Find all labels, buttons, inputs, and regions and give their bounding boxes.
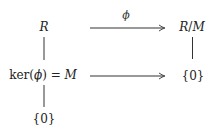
commutative-diagram: ϕ R R/M ker(ϕ) = M {0} {0} <box>0 0 216 134</box>
node-r-mod-m-r: R <box>179 20 188 34</box>
node-r-mod-m-m: M <box>192 20 204 34</box>
node-kernel-phi: ϕ <box>34 68 42 82</box>
node-r: R <box>39 21 48 33</box>
node-kernel-m: M <box>65 68 77 82</box>
node-zero-bottom: {0} <box>33 113 56 125</box>
node-kernel: ker(ϕ) = M <box>9 69 77 81</box>
arrow-ker-to-zero <box>90 73 165 79</box>
node-kernel-suffix: ) = <box>42 68 64 82</box>
node-zero-right: {0} <box>182 70 205 82</box>
phi-arrow-label: ϕ <box>122 10 130 21</box>
arrow-r-to-rm <box>90 25 165 31</box>
node-r-mod-m: R/M <box>179 21 204 33</box>
node-kernel-prefix: ker( <box>9 68 34 82</box>
